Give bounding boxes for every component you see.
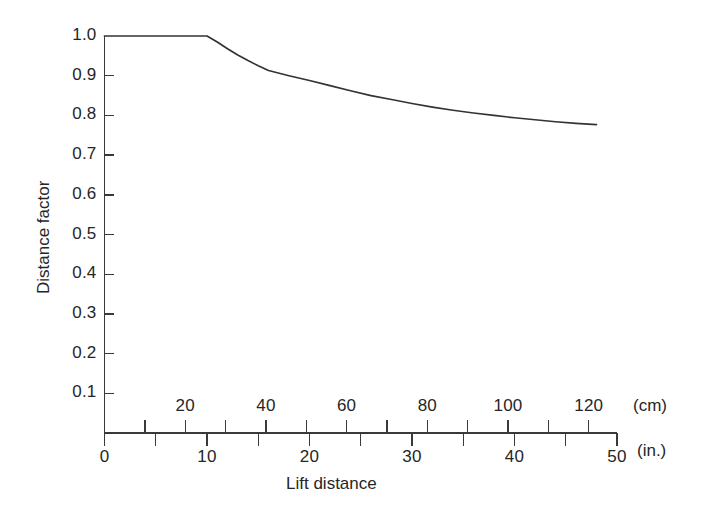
distance-factor-line bbox=[105, 36, 597, 125]
x-axis-tick-label-inch: 40 bbox=[492, 447, 538, 467]
x-axis-title: Lift distance bbox=[286, 474, 377, 494]
x-axis-tick-label-cm: 80 bbox=[404, 396, 450, 416]
y-axis-tick-label: 0.9 bbox=[51, 65, 97, 85]
chart-figure: 0.10.20.30.40.50.60.70.80.91.0 010203040… bbox=[0, 0, 710, 519]
y-axis-tick-label: 1.0 bbox=[51, 25, 97, 45]
distance-factor-curve bbox=[105, 36, 597, 125]
x-axis-tick-label-cm: 120 bbox=[566, 396, 612, 416]
y-axis-tick-label: 0.5 bbox=[51, 224, 97, 244]
chart-plot-area bbox=[0, 0, 710, 519]
y-axis-tick-label: 0.6 bbox=[51, 184, 97, 204]
x-axis-tick-label-cm: 100 bbox=[485, 396, 531, 416]
y-axis-tick-label: 0.8 bbox=[51, 104, 97, 124]
x-axis-tick-label-inch: 30 bbox=[389, 447, 435, 467]
x-axis-tick-label-inch: 50 bbox=[594, 447, 640, 467]
x-axis-tick-label-cm: 40 bbox=[243, 396, 289, 416]
y-axis-tick-label: 0.1 bbox=[51, 382, 97, 402]
x-axis-tick-label-inch: 10 bbox=[184, 447, 230, 467]
x-axis-tick-label-cm: 20 bbox=[162, 396, 208, 416]
y-axis-tick-label: 0.4 bbox=[51, 263, 97, 283]
x-axis-tick-label-inch: 20 bbox=[287, 447, 333, 467]
x-axis-tick-label-cm: 60 bbox=[324, 396, 370, 416]
y-axis-tick-label: 0.3 bbox=[51, 303, 97, 323]
y-axis-tick-label: 0.7 bbox=[51, 144, 97, 164]
unit-label-cm: (cm) bbox=[633, 396, 667, 416]
y-axis-title: Distance factor bbox=[34, 181, 54, 294]
x-axis-tick-label-inch: 0 bbox=[82, 447, 128, 467]
unit-label-inches: (in.) bbox=[637, 441, 666, 461]
axes-group bbox=[105, 36, 618, 447]
y-axis-tick-label: 0.2 bbox=[51, 343, 97, 363]
